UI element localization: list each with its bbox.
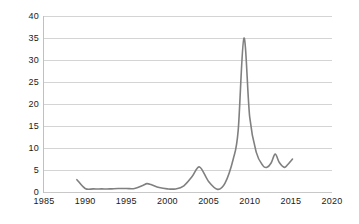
gridline-y-0 (44, 192, 332, 193)
y-tick-label-5: 5 (1, 165, 39, 175)
y-tick-label-30: 30 (1, 55, 39, 65)
y-tick-label-25: 25 (1, 77, 39, 87)
gridline-y-40 (44, 16, 332, 17)
y-tick-label-10: 10 (1, 143, 39, 153)
gridlines (44, 16, 332, 192)
y-axis-tick-labels: 0510152025303540 (0, 0, 39, 224)
y-tick-label-15: 15 (1, 121, 39, 131)
y-tick-label-20: 20 (1, 99, 39, 109)
x-tick-label-2005: 2005 (189, 196, 229, 207)
x-tick-label-2010: 2010 (230, 196, 270, 207)
gridline-y-15 (44, 126, 332, 127)
x-tick-label-2000: 2000 (147, 196, 187, 207)
gridline-y-25 (44, 82, 332, 83)
x-tick-label-2020: 2020 (312, 196, 352, 207)
y-tick-label-40: 40 (1, 11, 39, 21)
y-tick-label-35: 35 (1, 33, 39, 43)
x-tick-label-1990: 1990 (65, 196, 105, 207)
gridline-y-30 (44, 60, 332, 61)
x-tick-label-1995: 1995 (106, 196, 146, 207)
gridline-y-10 (44, 148, 332, 149)
line-chart: 0510152025303540 19851990199520002005201… (0, 0, 359, 224)
gridline-y-35 (44, 38, 332, 39)
gridline-y-5 (44, 170, 332, 171)
gridline-y-20 (44, 104, 332, 105)
x-tick-label-2015: 2015 (271, 196, 311, 207)
x-tick-label-1985: 1985 (24, 196, 64, 207)
